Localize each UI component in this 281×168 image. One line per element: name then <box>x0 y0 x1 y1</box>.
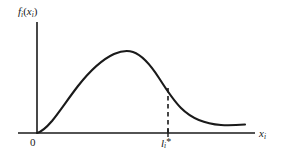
plot-canvas <box>0 0 281 168</box>
x-axis-label-subscript: i <box>264 132 266 141</box>
density-curve <box>37 51 245 133</box>
threshold-label: li* <box>161 137 171 150</box>
y-axis-label-close-paren: ) <box>34 5 38 17</box>
y-axis-label: fi(xi) <box>18 6 37 18</box>
origin-label: 0 <box>30 137 36 148</box>
figure-container: fi(xi) xi 0 li* <box>0 0 281 168</box>
threshold-label-asterisk: * <box>166 136 171 147</box>
x-axis-label: xi <box>259 128 266 140</box>
